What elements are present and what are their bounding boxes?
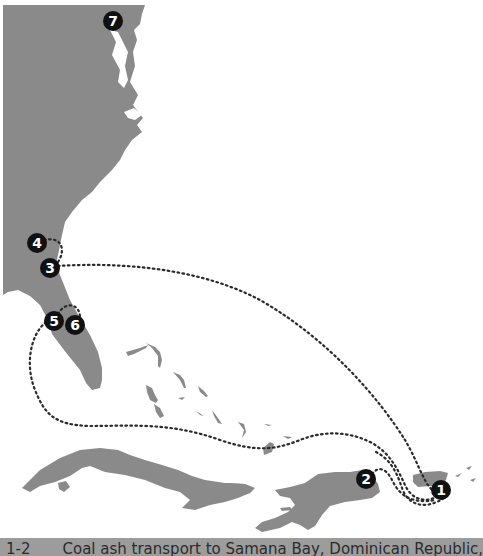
cuba — [22, 448, 255, 510]
marker-7[interactable]: 7 — [103, 11, 123, 31]
isle-of-youth — [58, 481, 70, 492]
svg-text:1: 1 — [436, 482, 446, 498]
marker-4[interactable]: 4 — [27, 233, 47, 253]
marker-6[interactable]: 6 — [65, 315, 85, 335]
marker-1[interactable]: 1 — [431, 480, 451, 500]
svg-text:4: 4 — [32, 235, 42, 251]
svg-text:7: 7 — [108, 13, 118, 29]
svg-text:5: 5 — [49, 313, 59, 329]
caption-text: Coal ash transport to Samana Bay, Domini… — [63, 540, 483, 556]
svg-text:2: 2 — [361, 471, 371, 487]
caption-number: 1-2 — [6, 540, 31, 556]
bahamas-islands — [126, 343, 292, 455]
marker-3[interactable]: 3 — [40, 258, 60, 278]
svg-text:3: 3 — [45, 260, 55, 276]
map: 1 2 3 4 5 6 7 — [0, 0, 483, 536]
svg-text:6: 6 — [70, 317, 80, 333]
figure-caption: 1-2 Coal ash transport to Samana Bay, Do… — [0, 538, 483, 556]
marker-2[interactable]: 2 — [356, 469, 376, 489]
virgin-islands — [455, 466, 476, 482]
marker-5[interactable]: 5 — [44, 311, 64, 331]
